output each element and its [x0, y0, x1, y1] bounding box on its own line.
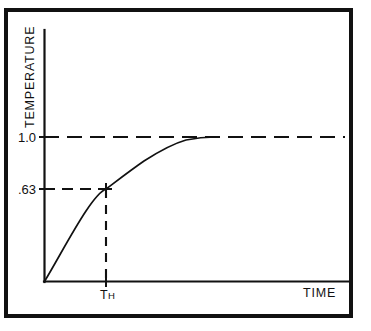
figure-root: 1.0 .63 T H TIME TEMPERATURE	[0, 0, 371, 331]
temperature-vs-time-chart: 1.0 .63 T H TIME TEMPERATURE	[0, 0, 371, 331]
y-axis-title: TEMPERATURE	[23, 26, 37, 128]
y-tick-label-063: .63	[18, 182, 36, 197]
y-tick-label-1-0: 1.0	[18, 130, 36, 145]
x-tick-label-th-sub: H	[108, 290, 115, 301]
x-axis-title: TIME	[303, 286, 336, 300]
